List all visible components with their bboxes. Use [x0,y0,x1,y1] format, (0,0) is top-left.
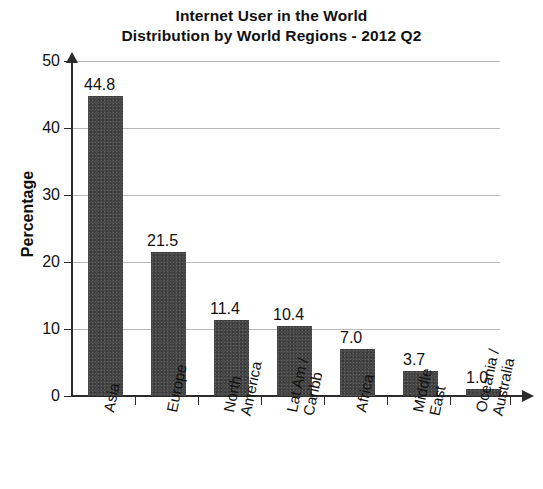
bar-value-europe: 21.5 [147,232,178,250]
y-tick-mark-30 [64,195,73,196]
x-tick-mark-3 [261,396,262,405]
y-tick-mark-10 [64,329,73,330]
bar-value-north-america: 11.4 [210,300,240,318]
y-tick-mark-40 [64,128,73,129]
y-tick-mark-20 [64,262,73,263]
gridline-20 [72,262,500,263]
gridline-30 [72,195,500,196]
gridline-50 [72,61,500,62]
bar-value-lat-am-caribb: 10.4 [273,306,304,324]
y-tick-label-50: 50 [24,52,60,70]
bar-value-middle-east: 3.7 [403,351,425,369]
y-axis-title: Percentage [19,154,37,274]
bar-asia [88,96,123,396]
bar-chart: Internet User in the World Distribution … [0,0,543,489]
x-tick-mark-7 [510,396,511,405]
y-tick-label-0: 0 [24,387,60,405]
y-tick-mark-50 [64,61,73,62]
plot-area: 50 40 30 20 10 0 Percentage 44.8 21.5 11… [0,0,543,489]
x-tick-mark-4 [324,396,325,405]
bar-value-africa: 7.0 [340,329,362,347]
y-tick-label-40: 40 [24,119,60,137]
bar-value-asia: 44.8 [84,76,115,94]
gridline-40 [72,128,500,129]
x-tick-mark-6 [450,396,451,405]
y-tick-label-10: 10 [24,320,60,338]
x-tick-mark-5 [387,396,388,405]
y-axis-line [71,61,73,397]
x-tick-mark-1 [135,396,136,405]
x-category-label-oceania-australia: Oceania / Australia [472,347,519,417]
x-axis-arrow-icon [522,390,534,402]
x-tick-mark-2 [198,396,199,405]
